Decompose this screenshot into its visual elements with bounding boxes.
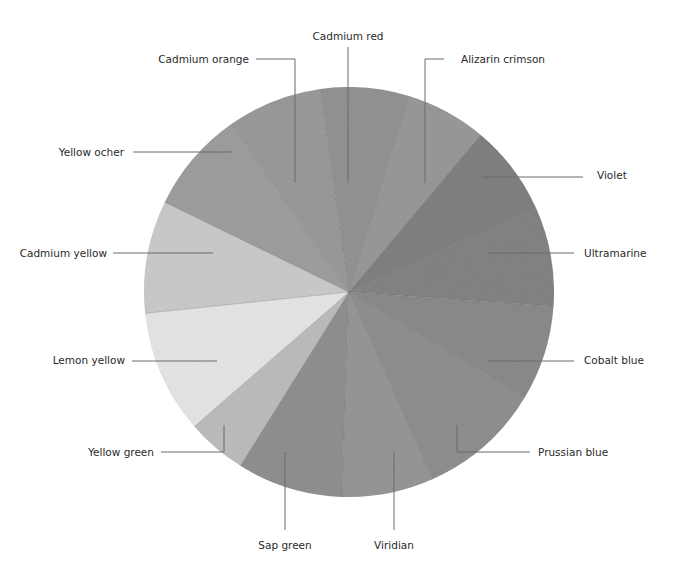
label-violet: Violet [597, 169, 627, 181]
label-alizarin-crimson: Alizarin crimson [461, 53, 545, 65]
label-ultramarine: Ultramarine [584, 247, 646, 259]
label-cadmium-yellow: Cadmium yellow [20, 247, 107, 259]
label-yellow-ocher: Yellow ocher [59, 146, 124, 158]
label-yellow-green: Yellow green [88, 446, 154, 458]
label-sap-green: Sap green [258, 539, 311, 551]
label-prussian-blue: Prussian blue [538, 446, 608, 458]
label-cobalt-blue: Cobalt blue [584, 354, 644, 366]
label-cadmium-orange: Cadmium orange [158, 53, 249, 65]
label-lemon-yellow: Lemon yellow [53, 354, 125, 366]
label-cadmium-red: Cadmium red [312, 30, 383, 42]
label-viridian: Viridian [374, 539, 414, 551]
color-wheel-diagram [0, 0, 673, 580]
